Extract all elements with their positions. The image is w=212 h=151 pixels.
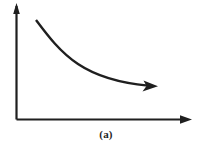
decreasing-curve bbox=[36, 20, 148, 86]
figure-panel-a: (a) bbox=[0, 0, 212, 151]
horizontal-axis-arrow-icon bbox=[180, 115, 192, 124]
figure-graphic bbox=[0, 0, 212, 151]
vertical-axis-arrow-icon bbox=[13, 3, 20, 14]
